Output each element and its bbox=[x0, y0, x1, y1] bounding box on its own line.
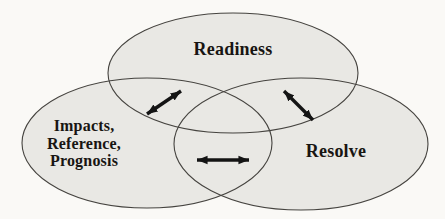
venn-svg bbox=[0, 0, 445, 219]
venn-diagram: Readiness Impacts, Reference, Prognosis … bbox=[0, 0, 445, 219]
readiness-label: Readiness bbox=[153, 40, 313, 59]
impacts-label: Impacts, Reference, Prognosis bbox=[22, 117, 146, 170]
resolve-label: Resolve bbox=[276, 142, 396, 161]
impacts-label-line-1: Impacts, bbox=[22, 117, 146, 135]
impacts-label-line-2: Reference, bbox=[22, 135, 146, 153]
impacts-label-line-3: Prognosis bbox=[22, 152, 146, 170]
